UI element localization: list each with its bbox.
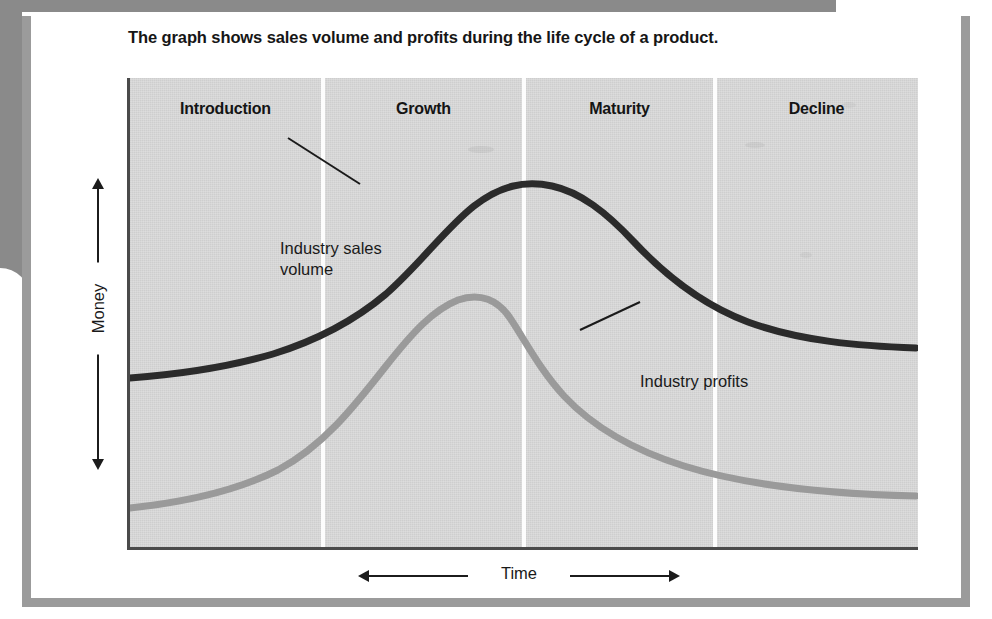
page-frame-left-lower	[0, 300, 22, 619]
chart-plot-area: Introduction Growth Maturity Decline Ind…	[128, 78, 918, 548]
arrow-up-icon	[92, 178, 104, 189]
x-axis-group: Time	[358, 562, 680, 590]
industry-sales-volume-curve	[130, 184, 916, 378]
industry-sales-annotation-line2: volume	[280, 259, 382, 280]
x-axis-label: Time	[468, 564, 570, 583]
industry-sales-annotation-line1: Industry sales	[280, 238, 382, 259]
figure-title: The graph shows sales volume and profits…	[128, 28, 918, 47]
industry-profits-curve	[130, 297, 916, 508]
y-axis-line	[127, 78, 130, 549]
chart-curves-svg	[128, 78, 918, 548]
industry-sales-leader-line	[288, 138, 360, 184]
industry-profits-leader-line	[580, 302, 640, 330]
y-axis-label: Money	[86, 263, 111, 355]
arrow-left-icon	[358, 570, 369, 582]
y-axis-group: Money	[78, 178, 118, 470]
figure-page: The graph shows sales volume and profits…	[0, 0, 992, 619]
arrow-down-icon	[92, 459, 104, 470]
arrow-right-icon	[669, 570, 680, 582]
x-axis-line	[127, 547, 918, 550]
industry-sales-annotation: Industry sales volume	[280, 238, 382, 280]
industry-profits-annotation: Industry profits	[640, 371, 748, 392]
